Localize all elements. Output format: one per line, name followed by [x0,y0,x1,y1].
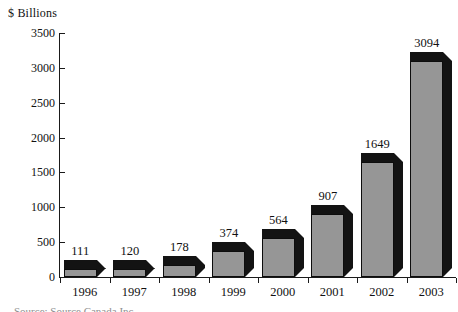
y-axis-tick [60,207,65,208]
bar-top-face [163,256,205,265]
bar [64,269,97,277]
bar-side-face [443,61,452,277]
bar-front-face [212,251,245,277]
x-axis-tick [308,278,309,283]
bar-value-label: 564 [248,213,308,227]
bar-front-face [163,265,196,277]
x-axis-tick [258,278,259,283]
bar-front-face [262,238,295,277]
bar [262,238,295,277]
x-axis-tick-label: 2001 [304,285,360,299]
bar-side-face [394,162,403,277]
bar-side-face [295,238,304,277]
y-axis-tick-label: 2500 [3,97,55,109]
bar-top-face [64,260,106,269]
bar-value-label: 3094 [397,36,457,50]
bar-value-label: 374 [199,226,259,240]
x-axis-tick-label: 1997 [106,285,162,299]
bar [113,269,146,277]
bar-top-face [113,260,155,269]
y-axis-tick-label: 2000 [3,132,55,144]
bar-chart: $ Billions 0500100015002000250030003500 … [0,0,458,312]
y-axis-tick-label: 0 [3,271,55,283]
x-axis-tick-label: 1996 [57,285,113,299]
bar-top-face [311,205,353,214]
bar [163,265,196,277]
x-axis-tick-label: 1999 [205,285,261,299]
y-axis-title: $ Billions [8,6,57,20]
bar-front-face [311,214,344,277]
x-axis-tick-label: 2003 [403,285,458,299]
x-axis-tick-label: 2002 [354,285,410,299]
source-caption: Source: Source Canada Inc. [14,305,136,312]
y-axis-tick [60,172,65,173]
bar-side-face [245,251,254,277]
y-axis-tick-label: 1500 [3,166,55,178]
bar [410,61,443,277]
bar-top-face [361,153,403,162]
x-axis-tick [110,278,111,283]
x-axis-tick [209,278,210,283]
bar-side-face [146,268,155,277]
bar [212,251,245,277]
bar-side-face [196,265,205,277]
bar [311,214,344,277]
y-axis-tick-label: 1000 [3,201,55,213]
bar-top-face [212,242,254,251]
y-axis-tick-label: 500 [3,236,55,248]
x-axis-tick [456,278,457,283]
bar-front-face [361,162,394,277]
y-axis-tick [60,138,65,139]
bar-top-face [262,229,304,238]
y-axis-tick-label: 3000 [3,62,55,74]
x-axis-tick [60,278,61,283]
bar-front-face [64,269,97,277]
bar-front-face [410,61,443,277]
bar-value-label: 907 [298,189,358,203]
x-axis-tick [159,278,160,283]
y-axis-tick [60,68,65,69]
bar [361,162,394,277]
bar-side-face [344,214,353,277]
x-axis-tick [357,278,358,283]
y-axis-tick [60,33,65,34]
bar-value-label: 1649 [347,137,407,151]
y-axis-tick-label: 3500 [3,27,55,39]
bar-value-label: 178 [149,240,209,254]
x-axis-tick-label: 1998 [156,285,212,299]
bar-side-face [97,268,106,277]
bar-top-face [410,52,452,61]
bar-front-face [113,269,146,277]
y-axis-tick [60,242,65,243]
y-axis-tick [60,103,65,104]
x-axis-tick-label: 2000 [255,285,311,299]
x-axis-tick [407,278,408,283]
